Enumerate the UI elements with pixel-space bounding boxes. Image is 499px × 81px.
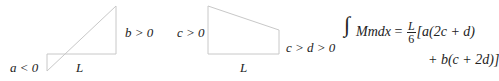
formula-line-2: + b(c + 2d)] bbox=[428, 52, 499, 68]
fig2-label-length: L bbox=[240, 61, 247, 74]
fig1-label-length: L bbox=[76, 61, 83, 74]
fig2-label-c: c > 0 bbox=[177, 26, 205, 39]
formula-line-1: Mmdx = L 6 [a(2c + d) bbox=[356, 20, 475, 45]
fig2-top-slope bbox=[208, 6, 279, 30]
formula-line1-rest: [a(2c + d) bbox=[417, 24, 475, 39]
formula-fraction: L 6 bbox=[407, 20, 416, 45]
fig1-label-b: b > 0 bbox=[125, 26, 153, 39]
fig1-label-a: a < 0 bbox=[10, 61, 38, 74]
fraction-denominator: 6 bbox=[407, 33, 416, 45]
integral-sign: ∫ bbox=[344, 12, 350, 38]
fig2-label-cd: c > d > 0 bbox=[286, 41, 335, 54]
formula-lhs: Mmdx bbox=[356, 24, 391, 39]
formula-equals: = bbox=[395, 24, 403, 39]
